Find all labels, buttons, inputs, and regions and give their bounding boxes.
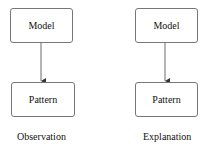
left-caption: Observation <box>17 131 66 142</box>
right-model-label: Model <box>153 20 179 31</box>
right-caption: Explanation <box>143 131 191 142</box>
right-model-box: Model <box>135 8 198 43</box>
left-pattern-box: Pattern <box>11 82 75 117</box>
left-pattern-label: Pattern <box>29 94 57 105</box>
left-model-label: Model <box>28 20 54 31</box>
left-model-box: Model <box>10 8 73 43</box>
right-pattern-label: Pattern <box>152 94 180 105</box>
right-pattern-box: Pattern <box>135 82 198 117</box>
